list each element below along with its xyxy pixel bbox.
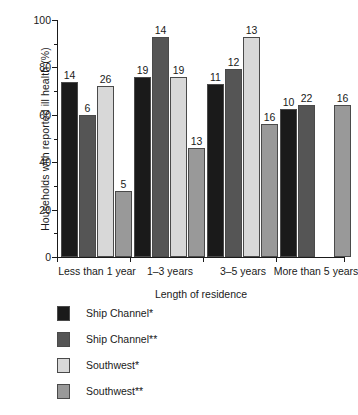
y-tick xyxy=(52,162,57,163)
x-tick-label: More than 5 years xyxy=(274,265,358,277)
y-tick xyxy=(52,115,57,116)
y-tick-label: 20 xyxy=(21,204,51,216)
y-tick-minor xyxy=(54,139,57,140)
legend-item: Southwest** xyxy=(57,378,157,404)
x-axis-line xyxy=(57,257,345,258)
bar-value-label: 14 xyxy=(64,69,76,81)
y-axis-line xyxy=(57,20,58,257)
bar: 16 xyxy=(261,124,278,257)
bar-value-label: 6 xyxy=(85,102,91,114)
x-tick-label: Less than 1 year xyxy=(58,265,136,277)
legend-label: Southwest* xyxy=(86,359,139,371)
bar-value-label: 10 xyxy=(283,96,295,108)
bar: 13 xyxy=(188,148,205,257)
bar: 19 xyxy=(170,77,187,257)
bar-value-label: 14 xyxy=(155,24,167,36)
bar-value-label: 22 xyxy=(301,92,313,104)
bar-value-label: 19 xyxy=(137,64,149,76)
legend-label: Ship Channel** xyxy=(86,333,157,345)
legend-label: Ship Channel* xyxy=(86,307,153,319)
bar: 19 xyxy=(134,77,151,257)
y-tick xyxy=(52,20,57,21)
x-tick xyxy=(276,257,277,262)
legend-swatch xyxy=(57,384,70,399)
legend-item: Ship Channel** xyxy=(57,326,157,352)
bar: 22 xyxy=(298,105,315,257)
y-tick xyxy=(52,67,57,68)
y-tick-minor xyxy=(54,44,57,45)
x-tick-label: 1–3 years xyxy=(147,265,193,277)
legend-swatch xyxy=(57,358,70,373)
x-tick xyxy=(344,257,345,262)
plot-area: 020406080100 146265191419131112131610221… xyxy=(57,20,345,257)
chart-legend: Ship Channel*Ship Channel**Southwest*Sou… xyxy=(57,300,157,404)
bar: 10 xyxy=(280,109,297,257)
x-axis-title: Length of residence xyxy=(57,288,345,300)
legend-item: Ship Channel* xyxy=(57,300,157,326)
bar-value-label: 16 xyxy=(264,111,276,123)
legend-item: Southwest* xyxy=(57,352,157,378)
x-tick xyxy=(203,257,204,262)
x-tick-label: 3–5 years xyxy=(220,265,266,277)
y-tick-minor xyxy=(54,186,57,187)
bar-value-label: 13 xyxy=(191,135,203,147)
bar: 16 xyxy=(334,105,351,257)
bar: 26 xyxy=(97,86,114,257)
legend-swatch xyxy=(57,306,70,321)
y-tick-label: 0 xyxy=(21,251,51,263)
bar: 12 xyxy=(225,69,242,257)
y-tick xyxy=(52,210,57,211)
bar-value-label: 5 xyxy=(121,178,127,190)
bar-value-label: 19 xyxy=(173,64,185,76)
bar: 11 xyxy=(207,84,224,257)
bar-value-label: 13 xyxy=(246,24,258,36)
y-tick-label: 40 xyxy=(21,156,51,168)
bar-value-label: 16 xyxy=(337,92,349,104)
bar-value-label: 11 xyxy=(210,71,221,83)
bar: 14 xyxy=(61,82,78,257)
x-tick xyxy=(57,257,58,262)
x-tick xyxy=(130,257,131,262)
legend-swatch xyxy=(57,332,70,347)
y-axis-title: Households with reported ill health (%) xyxy=(39,24,51,254)
bar: 6 xyxy=(79,115,96,257)
y-tick-label: 60 xyxy=(21,109,51,121)
y-tick-minor xyxy=(54,233,57,234)
bar: 14 xyxy=(152,37,169,257)
bar-value-label: 26 xyxy=(100,73,112,85)
y-tick-minor xyxy=(54,91,57,92)
bar: 5 xyxy=(115,191,132,257)
y-tick-label: 80 xyxy=(21,61,51,73)
legend-label: Southwest** xyxy=(86,385,143,397)
bar-value-label: 12 xyxy=(228,56,240,68)
y-tick-label: 100 xyxy=(21,14,51,26)
bar: 13 xyxy=(243,37,260,257)
